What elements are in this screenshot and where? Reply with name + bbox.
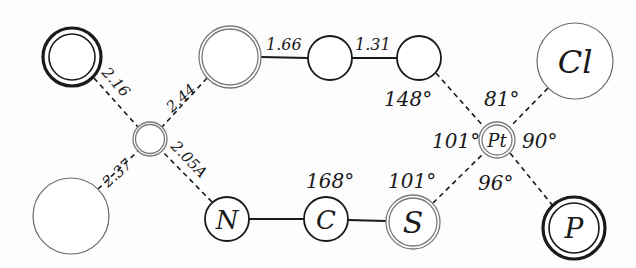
angle-label-101-pt: 101° [432, 129, 480, 153]
atom-cl: Cl [537, 23, 613, 99]
atom-pt: Pt [479, 122, 515, 158]
angle-label-96: 96° [478, 171, 513, 195]
atom-label-c: C [316, 205, 336, 235]
atom-mid-metal [133, 122, 167, 156]
bond-label-1-31: 1.31 [355, 35, 391, 54]
bond-top1-top2 [261, 57, 308, 58]
bond-s-pt [433, 153, 484, 203]
atom-top-3 [397, 36, 441, 80]
bond-label-2-44: 2.44 [162, 80, 200, 116]
diagram-canvas: Cl Pt P N C S 2.16 2.44 2.37 2.05A 1.66 … [0, 0, 636, 268]
atom-top-1 [199, 26, 261, 88]
atom-top-2 [308, 36, 352, 80]
bond-top3-pt [436, 73, 484, 127]
atom-label-cl: Cl [558, 43, 593, 81]
atom-top-left [43, 28, 101, 86]
atom-p: P [543, 197, 605, 259]
angle-label-101-s: 101° [388, 169, 436, 193]
bond-c-s [348, 220, 386, 221]
angle-label-90: 90° [522, 129, 557, 153]
atom-bottom-left [33, 178, 109, 254]
bond-p-pt [510, 153, 553, 206]
angle-label-148: 148° [384, 87, 432, 111]
angle-label-81: 81° [484, 87, 519, 111]
atom-n: N [205, 197, 249, 241]
atom-label-n: N [215, 205, 240, 235]
bond-label-2-16: 2.16 [97, 63, 134, 101]
atom-label-p: P [564, 212, 585, 245]
angle-label-168: 168° [306, 169, 354, 193]
atom-c: C [304, 197, 348, 241]
bond-label-2-37: 2.37 [98, 155, 136, 192]
bond-label-1-66: 1.66 [266, 35, 302, 54]
atom-s: S [386, 195, 440, 249]
atom-label-s: S [403, 205, 424, 240]
bond-label-2-05a: 2.05A [166, 137, 210, 182]
molecular-diagram: Cl Pt P N C S 2.16 2.44 2.37 2.05A 1.66 … [0, 0, 636, 268]
atom-label-pt: Pt [486, 130, 507, 151]
